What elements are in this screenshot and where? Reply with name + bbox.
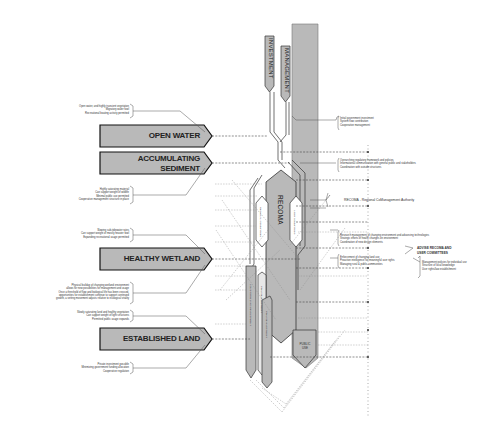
wetland-notes-below: Physical buildup of changing wetland env… [56, 284, 129, 300]
established-notes-below: Private investment possibleMinimizing go… [81, 363, 129, 373]
investment-notes: Initial government investmentSystem flow… [340, 117, 374, 127]
recoma-label: RECOMA [277, 195, 284, 225]
stage-healthy-wetland: HEALTHY WETLAND [100, 254, 200, 263]
advise-committees-label: ADVISE RECOMA ANDUSER COMMITTEES [417, 246, 451, 256]
research-notes: Research management of changing environm… [340, 234, 429, 244]
management-label: MANAGEMENT [282, 48, 290, 96]
user-committees-label: USER COMMITTEES [293, 205, 296, 239]
stage-accumulating-line2: SEDIMENT [100, 164, 200, 173]
regional-committees-label: REGIONAL COMMITTEES [259, 205, 262, 239]
wetland-notes-above: Slowing sub-tidewater ratesCan support w… [81, 229, 129, 239]
governance-diagram [0, 0, 502, 441]
public-use-label: PUBLICUSE [298, 342, 312, 350]
stage-accumulating-line1: ACCUMULATING [100, 154, 200, 163]
long-term-land-label: LONG-TERM LAND DEVELOPMENT [249, 275, 252, 335]
established-notes-above: Slowly saturating land and healthy veget… [77, 311, 129, 321]
stage-established-land: ESTABLISHED LAND [100, 334, 200, 343]
regional-committee-pill [256, 196, 268, 247]
investment-label: INVESTMENT [266, 38, 274, 86]
management-policies-notes: Management policies for individual useSt… [422, 261, 467, 271]
recoma-definition: RECOMA - Regional CoManagement Authority [344, 198, 414, 202]
user-committee-pill [290, 196, 302, 247]
open-water-notes: Open water, and highly transient vegetat… [79, 105, 129, 115]
stage-open-water: OPEN WATER [100, 131, 200, 140]
framework-notes: Overarching regulatory framework and pol… [340, 159, 416, 169]
enforcement-notes: Enforcement of changing land useProactiv… [340, 256, 395, 266]
private-investment-left-label: PRIVATE INVESTMENT [260, 280, 263, 320]
accumulating-notes: Highly saturating materialCan support we… [79, 188, 129, 201]
private-investment-right-label: PRIVATE INVESTMENT [265, 305, 268, 345]
